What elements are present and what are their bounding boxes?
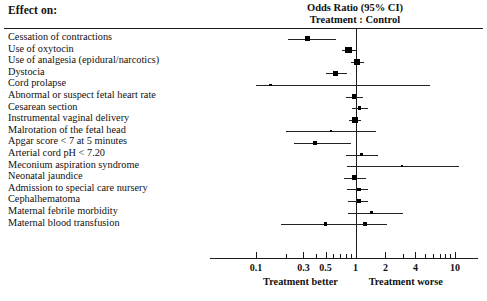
odds-ratio-marker [352, 117, 358, 123]
odds-ratio-marker [313, 141, 318, 146]
axis-minor-tick [440, 254, 441, 258]
confidence-interval-line [348, 213, 402, 214]
axis-major-tick [256, 252, 257, 258]
odds-ratio-marker [352, 94, 357, 99]
axis-minor-tick [403, 254, 404, 258]
odds-ratio-marker [345, 47, 351, 53]
axis-caption-left: Treatment better [255, 276, 345, 287]
odds-ratio-marker [269, 84, 271, 86]
axis-caption-right: Treatment worse [361, 276, 451, 287]
odds-ratio-marker [357, 188, 360, 191]
axis-minor-tick [340, 254, 341, 258]
odds-ratio-marker [354, 59, 360, 65]
axis-minor-tick [346, 254, 347, 258]
odds-ratio-marker [357, 199, 360, 202]
odds-ratio-marker [333, 71, 338, 76]
x-axis-line [210, 258, 478, 259]
axis-minor-tick [425, 254, 426, 258]
odds-ratio-marker [352, 175, 357, 180]
axis-minor-tick [351, 254, 352, 258]
confidence-interval-line [288, 39, 335, 40]
axis-minor-tick [316, 254, 317, 258]
odds-ratio-marker [358, 106, 361, 109]
odds-ratio-marker [370, 211, 372, 213]
axis-minor-tick [450, 254, 451, 258]
axis-minor-tick [433, 254, 434, 258]
odds-ratio-marker [324, 222, 327, 225]
axis-minor-tick [333, 254, 334, 258]
axis-major-tick [455, 252, 456, 258]
confidence-interval-line [294, 143, 351, 144]
axis-minor-tick [445, 254, 446, 258]
odds-ratio-marker [401, 165, 403, 167]
axis-major-tick [385, 252, 386, 258]
axis-major-tick [303, 252, 304, 258]
axis-tick-label: 0.1 [236, 262, 276, 273]
confidence-interval-line [256, 85, 430, 86]
axis-tick-label: 10 [435, 262, 475, 273]
forest-plot-figure: Effect on: Odds Ratio (95% CI) Treatment… [0, 0, 487, 301]
odds-ratio-marker [330, 130, 332, 132]
axis-major-tick [356, 248, 357, 258]
plot-area [0, 0, 487, 301]
odds-ratio-marker [305, 36, 310, 41]
axis-major-tick [326, 252, 327, 258]
axis-tick-label: 4 [395, 262, 435, 273]
axis-major-tick [415, 252, 416, 258]
odds-ratio-marker [360, 153, 363, 156]
axis-minor-tick [286, 254, 287, 258]
